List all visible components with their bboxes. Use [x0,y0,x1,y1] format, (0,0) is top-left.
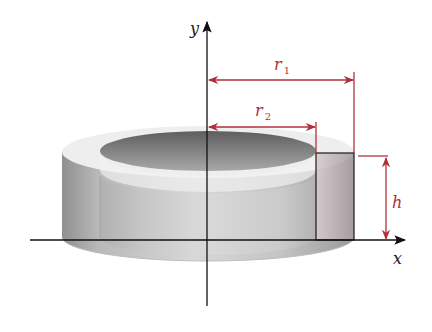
shell-diagram: y x r1 r2 h [0,0,432,332]
dimension-h: h [358,156,402,239]
cross-section [316,153,354,240]
cylindrical-shell [62,126,354,261]
y-axis-label: y [189,19,200,38]
h-label: h [392,193,402,212]
r1-label: r1 [274,55,290,76]
x-axis-label: x [393,249,402,268]
r2-label: r2 [255,101,271,122]
